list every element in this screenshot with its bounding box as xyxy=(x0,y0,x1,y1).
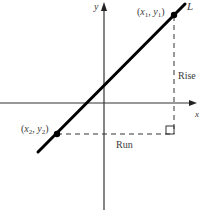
point-1-label: (x1, y1) xyxy=(137,6,165,19)
rise-label: Rise xyxy=(178,70,196,81)
line-L xyxy=(38,4,185,152)
y-axis-label: y xyxy=(93,1,99,12)
point-2-label: (x2, y2) xyxy=(21,123,49,136)
right-angle-marker xyxy=(166,126,174,134)
x-axis xyxy=(0,100,197,106)
y-axis-arrow-icon xyxy=(101,2,107,11)
point-2-dot xyxy=(54,131,60,137)
point-1-dot xyxy=(171,12,177,18)
line-label: L xyxy=(186,0,193,12)
y-axis xyxy=(101,2,107,210)
run-label: Run xyxy=(116,139,133,150)
x-axis-arrow-icon xyxy=(189,100,197,106)
x-axis-label: x xyxy=(194,109,199,119)
slope-diagram: x y L (x1, y1) (x2, y2) Rise Run xyxy=(0,0,199,210)
